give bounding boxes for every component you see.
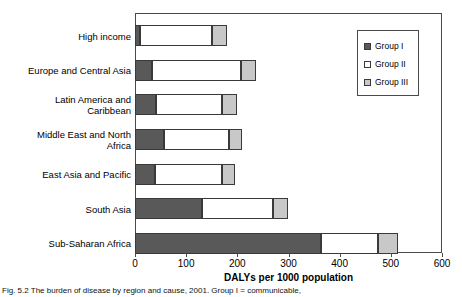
category-label-latin-america-caribbean: Latin America and Caribbean [0,94,131,116]
x-axis-tick [340,253,341,257]
light-gray-swatch-icon [364,79,371,86]
bar-europe-central-asia [135,60,256,81]
bar-segment [156,94,222,115]
dark-gray-swatch-icon [364,43,371,50]
bar-segment [241,60,256,81]
bar-high-income [135,25,227,46]
legend-item-group-i: Group I [364,37,418,55]
x-axis-tick [391,253,392,257]
legend-label-group-i: Group I [375,41,403,51]
x-axis-tick-label: 300 [280,258,297,269]
bar-segment [135,129,164,150]
category-label-europe-central-asia: Europe and Central Asia [0,65,131,76]
legend-label-group-iii: Group III [375,77,408,87]
x-axis-tick-label: 0 [132,258,138,269]
legend-label-group-ii: Group II [375,59,406,69]
x-axis-tick-label: 100 [178,258,195,269]
bar-segment [273,198,288,219]
x-axis-tick [289,253,290,257]
x-axis-title: DALYs per 1000 population [135,272,442,283]
figure-container: High income Europe and Central Asia Lati… [0,0,462,297]
bar-segment [152,60,241,81]
figure-caption: Fig. 5.2 The burden of disease by region… [2,286,460,295]
bar-segment [378,233,398,254]
bar-segment [135,94,156,115]
category-axis: High income Europe and Central Asia Lati… [0,13,131,253]
x-axis-tick-label: 400 [331,258,348,269]
category-label-high-income: High income [0,31,131,42]
category-label-middle-east-north-africa: Middle East and North Africa [0,129,131,151]
bar-segment [140,25,212,46]
bar-segment [135,198,202,219]
legend-item-group-ii: Group II [364,55,418,73]
bar-segment [321,233,378,254]
category-label-sub-saharan-africa: Sub-Saharan Africa [0,238,131,249]
bar-segment [135,60,152,81]
bar-south-asia [135,198,288,219]
x-axis-tick-label: 500 [382,258,399,269]
bar-segment [135,164,155,185]
chart-legend: Group I Group II Group III [357,30,419,96]
bar-latin-america-caribbean [135,94,237,115]
x-axis-tick [135,253,136,257]
bar-east-asia-pacific [135,164,235,185]
category-label-south-asia: South Asia [0,204,131,215]
x-axis-tick-label: 200 [229,258,246,269]
bar-segment [229,129,242,150]
x-axis-tick-label: 600 [434,258,451,269]
bar-sub-saharan-africa [135,233,399,254]
x-axis-tick [186,253,187,257]
bar-segment [212,25,227,46]
x-axis-tick [442,253,443,257]
bar-middle-east-north-africa [135,129,242,150]
category-label-east-asia-pacific: East Asia and Pacific [0,169,131,180]
bar-segment [135,233,321,254]
legend-item-group-iii: Group III [364,73,418,91]
bar-segment [164,129,229,150]
bar-segment [155,164,222,185]
bar-segment [202,198,273,219]
white-swatch-icon [364,61,371,68]
bar-segment [222,94,237,115]
bar-segment [222,164,235,185]
x-axis-tick [237,253,238,257]
